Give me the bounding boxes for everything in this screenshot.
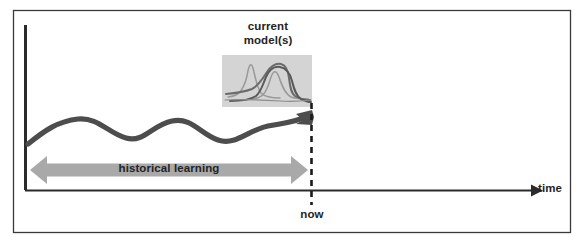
historical-learning-label: historical learning [30,162,308,174]
current-models-line1: current [222,19,314,33]
current-models-label: current model(s) [222,19,314,47]
current-models-line2: model(s) [222,33,314,47]
historical-signal-wave [28,117,305,144]
time-axis-label: time [538,182,562,194]
now-label: now [284,208,340,220]
diagram-canvas: current model(s) historical learning now… [0,0,584,246]
